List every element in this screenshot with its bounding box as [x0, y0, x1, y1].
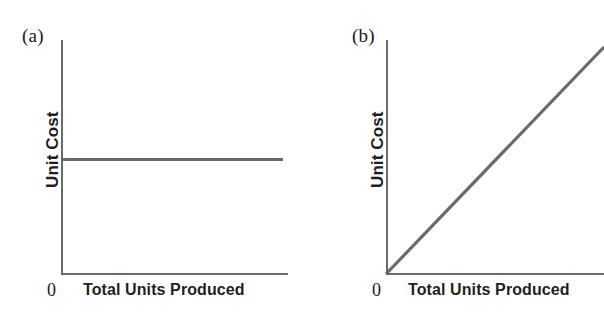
- panel-a: (a) Unit Cost 0 Total Units Produced: [0, 0, 302, 330]
- panel-b-y-axis-title: Unit Cost: [369, 112, 386, 188]
- panel-b-origin-label: 0: [372, 281, 381, 299]
- panel-a-x-axis-title: Total Units Produced: [83, 282, 245, 298]
- panel-a-series-line: [61, 158, 283, 161]
- panel-a-x-axis: [61, 273, 288, 275]
- panel-a-label: (a): [22, 26, 44, 45]
- figure-container: (a) Unit Cost 0 Total Units Produced (b)…: [0, 0, 604, 330]
- panel-b-series-line: [386, 40, 604, 275]
- panel-a-origin-label: 0: [47, 281, 56, 299]
- panel-b-x-axis-title: Total Units Produced: [408, 282, 570, 298]
- panel-a-y-axis-title: Unit Cost: [44, 112, 61, 188]
- panel-b-label: (b): [352, 26, 375, 45]
- panel-b: (b) Unit Cost 0 Total Units Produced: [302, 0, 604, 330]
